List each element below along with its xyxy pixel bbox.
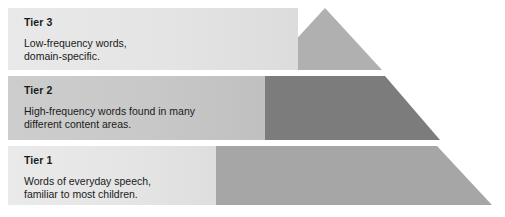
tier-2-label-band: Tier 2 High-frequency words found in man… (8, 76, 265, 140)
tier-1-title: Tier 1 (24, 154, 216, 166)
pyramid-segment-tier-2 (240, 76, 440, 140)
tier-2-description-line-2: different content areas. (24, 118, 265, 131)
tier-1-description-line-1: Words of everyday speech, (24, 175, 216, 188)
tier-3-description-line-1: Low-frequency words, (24, 37, 298, 50)
tier-3-title: Tier 3 (24, 16, 298, 28)
tier-1-description: Words of everyday speech, familiar to mo… (24, 175, 216, 201)
tier-3-description-line-2: domain-specific. (24, 50, 298, 63)
vocabulary-tier-pyramid-figure: Tier 3 Low-frequency words, domain-speci… (0, 0, 505, 217)
tier-2-description: High-frequency words found in many diffe… (24, 105, 265, 131)
tier-3-label-band: Tier 3 Low-frequency words, domain-speci… (8, 8, 298, 70)
tier-3-description: Low-frequency words, domain-specific. (24, 37, 298, 63)
tier-2-title: Tier 2 (24, 84, 265, 96)
tier-1-description-line-2: familiar to most children. (24, 188, 216, 201)
tier-2-description-line-1: High-frequency words found in many (24, 105, 265, 118)
pyramid-segment-tier-1 (180, 146, 492, 205)
tier-1-label-band: Tier 1 Words of everyday speech, familia… (8, 146, 216, 205)
